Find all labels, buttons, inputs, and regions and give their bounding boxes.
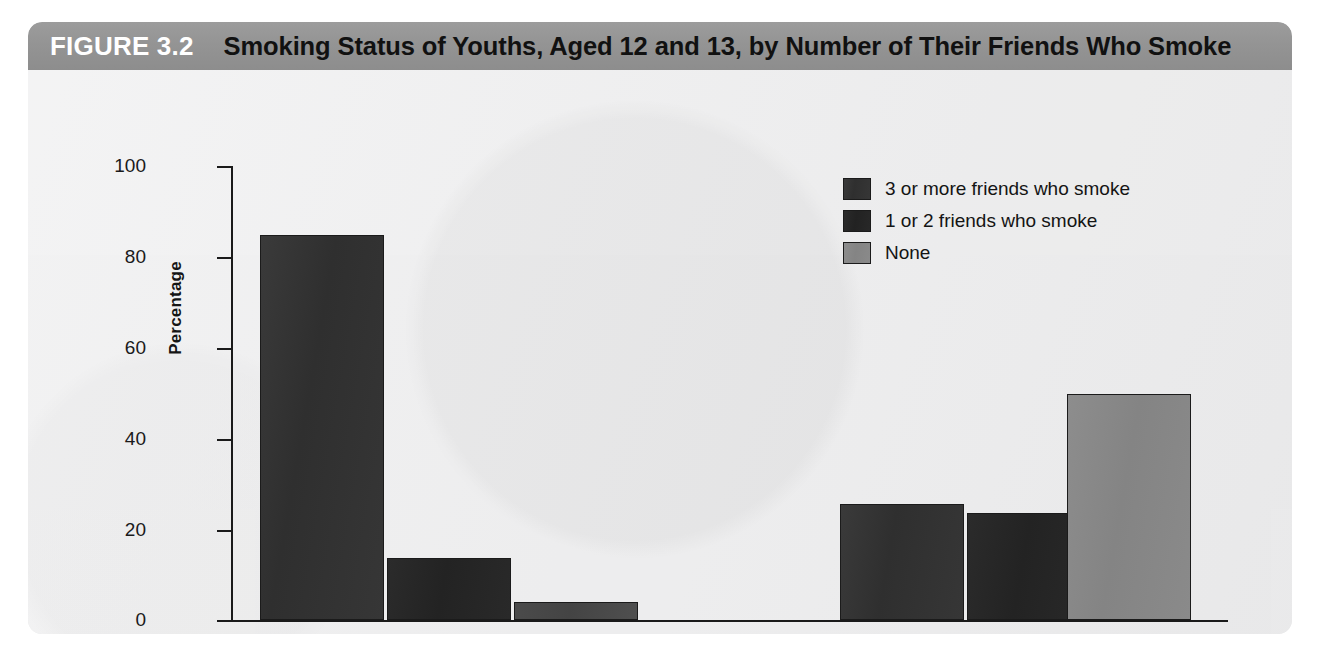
figure-panel: FIGURE 3.2 Smoking Status of Youths, Age… (28, 22, 1292, 634)
legend-label-1-or-2: 1 or 2 friends who smoke (885, 210, 1097, 232)
chart-plot-area: Percentage 100 80 60 40 20 0 (28, 70, 1292, 634)
legend-swatch-1-or-2-icon (843, 210, 871, 232)
y-tick-label-80: 80 (86, 247, 146, 266)
bar-current-smoker-1-or-2 (387, 558, 511, 620)
figure-body: Percentage 100 80 60 40 20 0 (28, 70, 1292, 634)
y-tick-label-60: 60 (86, 338, 146, 357)
legend-label-3-or-more: 3 or more friends who smoke (885, 178, 1130, 200)
figure-header-bar: FIGURE 3.2 Smoking Status of Youths, Age… (28, 22, 1292, 70)
y-tick-label-40: 40 (86, 429, 146, 448)
legend-item-1-or-2: 1 or 2 friends who smoke (843, 206, 1130, 235)
bar-current-non-smoker-none (1067, 394, 1191, 620)
figure-root: FIGURE 3.2 Smoking Status of Youths, Age… (0, 0, 1320, 657)
y-tick-20 (217, 530, 232, 532)
legend-item-3-or-more: 3 or more friends who smoke (843, 174, 1130, 203)
chart-legend: 3 or more friends who smoke 1 or 2 frien… (843, 174, 1130, 270)
figure-title: Smoking Status of Youths, Aged 12 and 13… (224, 32, 1232, 61)
legend-swatch-none-icon (843, 242, 871, 264)
y-tick-label-20: 20 (86, 520, 146, 539)
y-tick-60 (217, 348, 232, 350)
figure-number: FIGURE 3.2 (50, 31, 194, 62)
bar-current-non-smoker-3-or-more (840, 504, 964, 620)
x-axis-line (231, 620, 1228, 622)
x-category-label-current-smoker: Current smoker (319, 632, 579, 634)
y-axis-title: Percentage (166, 238, 186, 378)
legend-label-none: None (885, 242, 930, 264)
legend-item-none: None (843, 238, 1130, 267)
legend-swatch-3-or-more-icon (843, 178, 871, 200)
y-tick-0 (217, 620, 232, 622)
bar-current-smoker-none (514, 602, 638, 620)
y-tick-80 (217, 257, 232, 259)
y-axis-line (231, 166, 233, 622)
bar-current-smoker-3-or-more (260, 235, 384, 620)
y-tick-label-100: 100 (86, 156, 146, 175)
y-tick-40 (217, 439, 232, 441)
y-tick-label-0: 0 (86, 610, 146, 629)
x-category-label-current-non-smoker: Current non-smoker (886, 632, 1166, 634)
y-tick-100 (217, 166, 232, 168)
